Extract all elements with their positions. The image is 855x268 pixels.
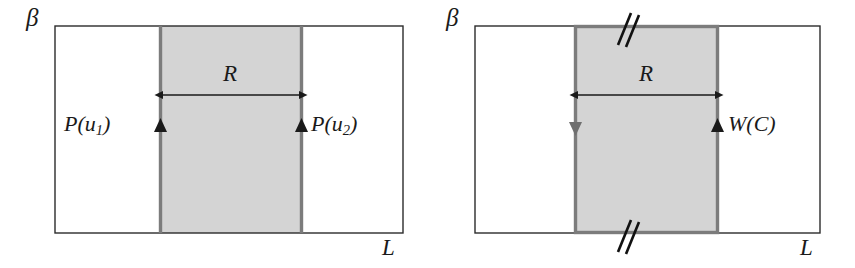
left-panel-pu2-label: P(u2) (311, 113, 357, 138)
right-panel-R-label: R (639, 62, 653, 85)
right-panel-wc-label: W(C) (728, 113, 776, 135)
left-panel-pu2-close: ) (350, 111, 357, 136)
right-panel-L-label: L (800, 236, 813, 259)
left-panel-pu1-subscript: 1 (96, 122, 103, 138)
left-panel-pu2-subscript: 2 (343, 122, 350, 138)
right-panel-shaded-band (575, 26, 718, 233)
right-panel-beta-label: β (446, 5, 458, 30)
figure-container: β L R P(u1) P(u2) β L R W(C) (0, 0, 855, 268)
left-panel-beta-label: β (26, 5, 38, 30)
left-panel-pu1-close: ) (103, 111, 110, 136)
left-panel-pu2-base: P(u (311, 111, 343, 136)
left-panel-shaded-band (160, 26, 302, 233)
figure-graphics (0, 0, 855, 268)
left-panel-R-label: R (223, 62, 237, 85)
left-panel-L-label: L (382, 236, 395, 259)
left-panel-pu1-label: P(u1) (64, 113, 110, 138)
left-panel-pu1-base: P(u (64, 111, 96, 136)
